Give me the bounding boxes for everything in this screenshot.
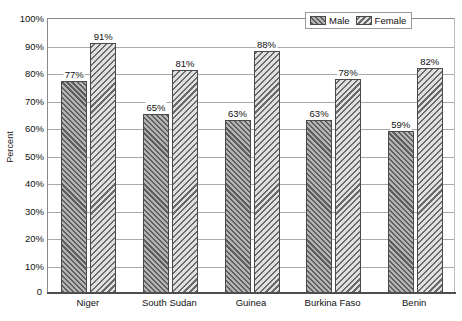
y-tick-label: 20% xyxy=(2,233,44,244)
bar-value-label: 59% xyxy=(390,119,411,130)
bar-value-label: 63% xyxy=(227,108,248,119)
y-tick-label: 100% xyxy=(2,13,44,24)
bar-female[interactable]: 88% xyxy=(254,51,280,293)
x-tick-label: Niger xyxy=(76,297,99,308)
bar-male[interactable]: 59% xyxy=(388,131,414,293)
bar-group: 59%82% xyxy=(388,19,443,293)
y-tick-label: 10% xyxy=(2,260,44,271)
y-tick-label: 40% xyxy=(2,178,44,189)
bar-value-label: 77% xyxy=(64,69,85,80)
plot-area: 77%91%65%81%63%88%63%78%59%82% xyxy=(47,18,455,293)
legend-item-male[interactable]: Male xyxy=(310,15,350,26)
legend-swatch-icon xyxy=(356,16,372,25)
y-axis-origin-label: 0 xyxy=(28,286,42,297)
bar-male[interactable]: 65% xyxy=(143,114,169,293)
x-tick-label: Benin xyxy=(402,297,426,308)
bar-female[interactable]: 82% xyxy=(417,68,443,294)
x-axis-line xyxy=(47,292,456,294)
legend-label: Male xyxy=(329,15,350,26)
bar-female[interactable]: 81% xyxy=(172,70,198,293)
y-tick-label: 80% xyxy=(2,68,44,79)
y-tick-label: 50% xyxy=(2,150,44,161)
bar-group: 65%81% xyxy=(143,19,198,293)
bar-male[interactable]: 63% xyxy=(225,120,251,293)
legend-item-female[interactable]: Female xyxy=(356,15,407,26)
bar-value-label: 65% xyxy=(145,102,166,113)
bar-female[interactable]: 78% xyxy=(335,79,361,294)
legend: MaleFemale xyxy=(305,12,412,29)
x-tick-label: Guinea xyxy=(236,297,267,308)
legend-swatch-icon xyxy=(310,16,326,25)
bar-group: 63%78% xyxy=(306,19,361,293)
y-tick-label: 90% xyxy=(2,40,44,51)
y-tick-label: 30% xyxy=(2,205,44,216)
bars-layer: 77%91%65%81%63%88%63%78%59%82% xyxy=(48,19,454,293)
y-axis-tick-labels: 10%20%30%40%50%60%70%80%90%100% xyxy=(0,0,44,321)
bar-value-label: 63% xyxy=(309,108,330,119)
x-tick-label: South Sudan xyxy=(142,297,197,308)
x-tick-label: Burkina Faso xyxy=(305,297,361,308)
bar-value-label: 91% xyxy=(93,31,114,42)
bar-value-label: 78% xyxy=(338,67,359,78)
y-tick-label: 70% xyxy=(2,95,44,106)
bar-female[interactable]: 91% xyxy=(90,43,116,293)
bar-value-label: 81% xyxy=(174,58,195,69)
y-tick-label: 60% xyxy=(2,123,44,134)
x-axis-tick-labels: NigerSouth SudanGuineaBurkina FasoBenin xyxy=(47,297,455,317)
bar-group: 77%91% xyxy=(61,19,116,293)
bar-chart: Percent 10%20%30%40%50%60%70%80%90%100% … xyxy=(0,0,462,321)
legend-label: Female xyxy=(375,15,407,26)
bar-male[interactable]: 63% xyxy=(306,120,332,293)
bar-group: 63%88% xyxy=(225,19,280,293)
bar-male[interactable]: 77% xyxy=(61,81,87,293)
bar-value-label: 88% xyxy=(256,39,277,50)
bar-value-label: 82% xyxy=(419,56,440,67)
